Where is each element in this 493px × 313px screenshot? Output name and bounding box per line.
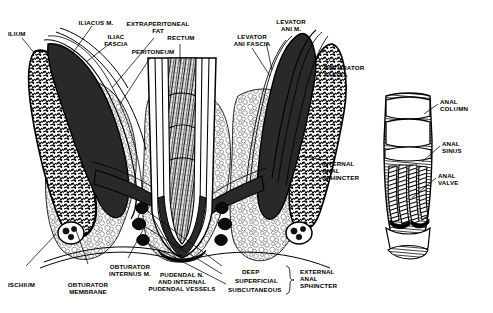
label-obturator-membrane: OBTURATOR MEMBRANE <box>68 281 108 295</box>
label-ilium: ILIUM <box>8 30 26 37</box>
label-internal-anal-sphincter: INTERNAL ANAL SPHINCTER <box>322 160 359 182</box>
label-iliac-fascia: ILIAC FASCIA <box>104 33 128 47</box>
label-pudendal-nerve-vessels: PUDENDAL N. AND INTERNAL PUDENDAL VESSEL… <box>149 271 216 293</box>
label-extraperitoneal-fat: EXTRAPERITONEAL FAT <box>127 20 190 34</box>
label-iliacus-muscle: ILIACUS M. <box>79 19 114 26</box>
label-subcutaneous: SUBCUTANEOUS <box>228 286 282 293</box>
label-anal-column: ANAL COLUMN <box>440 98 468 112</box>
label-external-anal-sphincter: EXTERNAL ANAL SPHINCTER <box>300 268 337 290</box>
rectum-anal-canal <box>148 58 216 262</box>
label-levator-ani-fascia: LEVATOR ANI FASCIA <box>234 33 271 47</box>
label-anal-valve: ANAL VALVE <box>438 172 458 186</box>
label-peritoneum: PERITONEUM <box>132 48 175 55</box>
label-ischium: ISCHIUM <box>8 281 35 288</box>
label-obturator-internus: OBTURATOR INTERNUS M. <box>109 263 151 277</box>
label-obturator-fascia: OBTURATOR FASCIA <box>324 64 364 78</box>
anatomy-figure: ILIUM ILIACUS M. ILIAC FASCIA EXTRAPERIT… <box>0 0 493 313</box>
anal-canal-inset <box>384 93 432 259</box>
label-rectum: RECTUM <box>167 34 194 41</box>
pudendal-canal-right <box>286 222 312 244</box>
label-levator-ani-muscle: LEVATOR ANI M. <box>276 18 306 32</box>
label-superficial: SUPERFICIAL <box>235 277 278 284</box>
label-deep: DEEP <box>242 268 259 275</box>
label-anal-sinus: ANAL SINUS <box>442 140 462 154</box>
sphincter-brace <box>286 266 294 294</box>
